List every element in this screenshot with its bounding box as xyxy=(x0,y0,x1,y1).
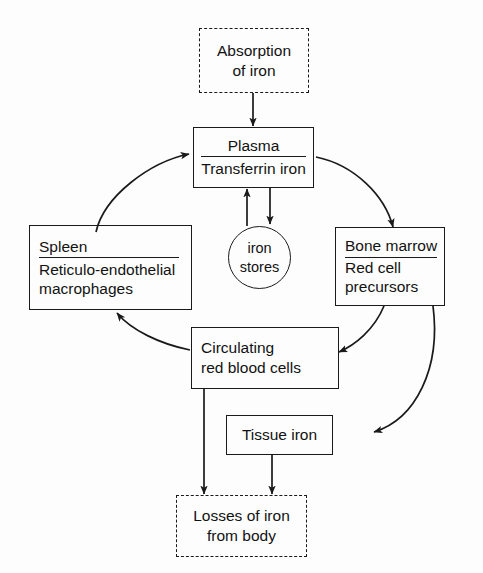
edge-circulating-rbc-to-spleen xyxy=(117,313,190,350)
losses-of-iron-box: Losses of iron from body xyxy=(176,495,307,557)
tissue-iron-label: Tissue iron xyxy=(227,425,332,445)
iron-metabolism-diagram: Absorption of iron Plasma Transferrin ir… xyxy=(0,0,483,573)
spleen-line-3: macrophages xyxy=(39,279,184,299)
plasma-box: Plasma Transferrin iron xyxy=(193,127,314,188)
iron-stores-line-2: stores xyxy=(229,258,290,277)
iron-stores-circle: iron stores xyxy=(228,226,291,289)
absorption-line-1: Absorption xyxy=(200,41,308,61)
edge-bone-marrow-to-circulating-rbc xyxy=(339,306,384,352)
plasma-title: Plasma xyxy=(201,136,306,157)
spleen-line-2: Reticulo-endothelial xyxy=(39,260,184,280)
edge-spleen-to-plasma xyxy=(96,154,189,232)
spleen-box: Spleen Reticulo-endothelial macrophages xyxy=(29,225,192,310)
bone-marrow-line-3: precursors xyxy=(345,277,437,297)
circulating-rbc-box: Circulating red blood cells xyxy=(191,327,339,389)
bone-marrow-box: Bone marrow Red cell precursors xyxy=(335,227,445,306)
absorption-of-iron-box: Absorption of iron xyxy=(199,28,309,93)
edge-plasma-to-bone-marrow xyxy=(316,157,393,227)
bone-marrow-title: Bone marrow xyxy=(345,236,437,258)
plasma-subtitle: Transferrin iron xyxy=(194,159,313,179)
losses-line-1: Losses of iron xyxy=(177,506,306,526)
circulating-rbc-line-2: red blood cells xyxy=(201,358,331,378)
circulating-rbc-line-1: Circulating xyxy=(201,338,331,358)
losses-line-2: from body xyxy=(177,526,306,546)
absorption-line-2: of iron xyxy=(200,61,308,81)
edge-bone-marrow-to-tissue-iron xyxy=(374,306,434,432)
bone-marrow-line-2: Red cell xyxy=(345,258,437,278)
iron-stores-line-1: iron xyxy=(229,239,290,258)
spleen-title: Spleen xyxy=(39,237,179,258)
tissue-iron-box: Tissue iron xyxy=(226,415,333,455)
